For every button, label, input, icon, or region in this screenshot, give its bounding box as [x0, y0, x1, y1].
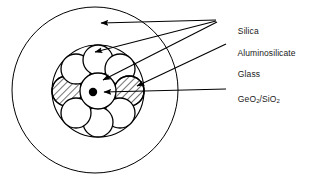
label-aluminosilicate-line2: Glass: [238, 69, 260, 79]
label-geo2-middle: /SiO: [260, 94, 277, 104]
label-geo2-subscript-2: 2: [277, 98, 280, 104]
core-dot: [89, 88, 97, 96]
label-aluminosilicate-glass: Aluminosilicate Glass: [228, 37, 296, 90]
label-aluminosilicate-line1: Aluminosilicate: [237, 48, 295, 58]
label-geo2-subscript-1: 2: [256, 98, 259, 104]
fiber-cross-section-figure: Silica Aluminosilicate Glass GeO2/SiO2: [0, 0, 309, 182]
label-geo2-prefix: GeO: [238, 94, 256, 104]
center-rod: [80, 73, 116, 109]
label-geo2-sio2: GeO2/SiO2: [228, 83, 280, 115]
label-silica-text: Silica: [238, 26, 259, 36]
